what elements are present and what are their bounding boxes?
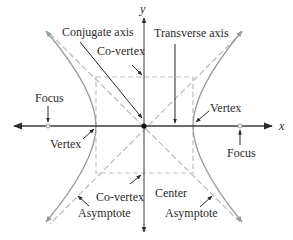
focus-right-label: Focus: [227, 146, 256, 160]
vertex-right-pointer: [196, 111, 209, 122]
y-axis-label: y: [139, 2, 146, 16]
conjugate-axis-label: Conjugate axis: [62, 25, 134, 39]
focus-point-right: [238, 124, 242, 128]
asymptote-left-label: Asymptote: [78, 206, 131, 220]
center-label: Center: [155, 186, 187, 200]
focus-left-label: Focus: [35, 91, 64, 105]
co-vertex-top-label: Co-vertex: [97, 44, 145, 58]
vertex-left-label: Vertex: [50, 137, 81, 151]
co-vertex-top-pointer: [132, 65, 142, 75]
asymptote-right-label: Asymptote: [165, 206, 218, 220]
center-point: [141, 123, 146, 128]
vertex-left-pointer: [83, 129, 94, 139]
x-axis-label: x: [278, 119, 285, 133]
co-vertex-bottom-label: Co-vertex: [96, 190, 144, 204]
asymptote-line-1: [50, 34, 242, 224]
co-vertex-bottom-pointer: [130, 175, 141, 184]
asymptote-left-pointer: [78, 196, 89, 206]
hyperbola-diagram: x y Conjugate axis Co-vertex Transverse …: [0, 0, 293, 240]
vertex-right-label: Vertex: [210, 101, 241, 115]
transverse-axis-label: Transverse axis: [154, 26, 229, 40]
focus-point-left: [46, 124, 50, 128]
